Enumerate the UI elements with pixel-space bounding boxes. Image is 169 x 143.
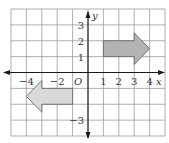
x-tick-label: 2 xyxy=(116,76,122,87)
x-axis-right-arrowhead-icon xyxy=(158,70,165,75)
y-axis-top-arrowhead-icon xyxy=(86,11,91,18)
x-axis-label: x xyxy=(156,76,162,87)
y-axis-bottom-arrowhead-icon xyxy=(86,132,91,139)
y-tick-label: −3 xyxy=(69,115,84,126)
x-tick-label: −2 xyxy=(50,76,65,87)
x-tick-label: 1 xyxy=(100,76,106,87)
y-axis-label: y xyxy=(91,10,98,21)
y-tick-label: 2 xyxy=(78,36,84,47)
right-arrow-shape xyxy=(103,33,149,65)
x-tick-label: 3 xyxy=(131,76,137,87)
x-tick-label: 4 xyxy=(146,76,152,87)
x-tick-label: −4 xyxy=(19,76,34,87)
y-tick-label: 1 xyxy=(78,52,84,63)
y-tick-label: 3 xyxy=(78,20,84,31)
coordinate-grid-diagram: x y O −4−21234321−3 xyxy=(0,0,169,143)
x-axis-left-arrowhead-icon xyxy=(3,70,10,75)
origin-label: O xyxy=(74,76,82,87)
